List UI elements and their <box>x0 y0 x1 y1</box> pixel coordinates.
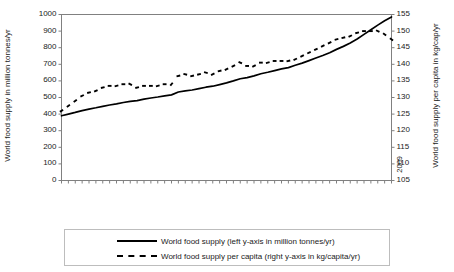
series-point-marker <box>101 87 105 88</box>
series-point-marker <box>135 87 139 88</box>
legend-swatch-dashed-line-icon <box>115 251 159 261</box>
legend: World food supply (left y-axis in millio… <box>64 229 390 266</box>
legend-swatch-solid-line-icon <box>115 236 159 246</box>
series-point-marker <box>335 39 339 40</box>
series-point-marker <box>218 70 222 71</box>
series-point-marker <box>204 72 208 73</box>
series-point-marker <box>87 92 91 93</box>
series-point-marker <box>266 62 270 63</box>
series-point-marker <box>183 74 187 75</box>
series-point-marker <box>197 74 201 75</box>
series-point-marker <box>156 85 160 86</box>
series-point-marker <box>287 61 291 62</box>
chart-figure: World food supply in million tonnes/yr W… <box>0 0 454 272</box>
legend-label-per-capita: World food supply per capita (right y-ax… <box>161 252 360 261</box>
legend-label-world-food-supply: World food supply (left y-axis in millio… <box>161 237 335 246</box>
legend-item-world-food-supply: World food supply (left y-axis in millio… <box>65 234 389 248</box>
legend-item-per-capita: World food supply per capita (right y-ax… <box>65 249 389 263</box>
plot-frame <box>62 15 392 181</box>
series-point-marker <box>177 75 181 76</box>
series-point-marker <box>342 37 346 38</box>
series-point-marker <box>355 32 359 33</box>
series-point-marker <box>190 75 194 76</box>
series-point-marker <box>115 85 119 86</box>
